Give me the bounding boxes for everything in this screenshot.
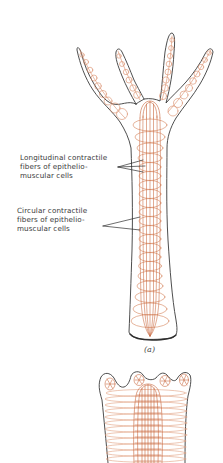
hypostome-fibers: [140, 101, 160, 118]
circular-fibers: [105, 390, 187, 463]
tentacle-stub-fibers: [105, 374, 189, 390]
label-line: muscular cells: [17, 224, 87, 233]
hydra-contracted: [99, 372, 191, 463]
label-longitudinal-fibers: Longitudinal contractile fibers of epith…: [20, 153, 107, 181]
body-outline: [77, 33, 213, 339]
longitudinal-fibers: [140, 116, 161, 336]
leader-lines: [103, 160, 145, 230]
hydra-extended: [77, 33, 213, 340]
hydra-diagram: Longitudinal contractile fibers of epith…: [0, 0, 223, 463]
tentacle-fibers: [80, 36, 211, 120]
label-line: Circular contractile: [17, 206, 87, 215]
panel-caption-a: (a): [144, 345, 155, 354]
label-line: Longitudinal contractile: [20, 153, 107, 162]
label-line: muscular cells: [20, 171, 107, 180]
label-circular-fibers: Circular contractile fibers of epithelio…: [17, 206, 87, 234]
label-line: fibers of epithelio-: [20, 162, 107, 171]
label-line: fibers of epithelio-: [17, 215, 87, 224]
